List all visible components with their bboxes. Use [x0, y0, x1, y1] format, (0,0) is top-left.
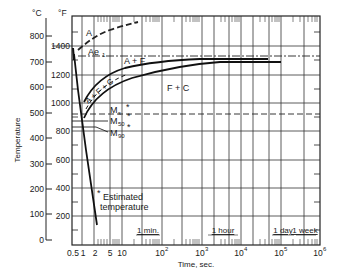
svg-text:600: 600: [30, 82, 44, 92]
svg-text:10: 10: [195, 248, 205, 258]
label-ms: M: [110, 105, 118, 115]
svg-text:6: 6: [323, 246, 327, 252]
label-m90-sub: 90: [118, 133, 125, 139]
note-line-2: temperature: [100, 202, 149, 212]
y-axis-title: Temperature: [13, 117, 22, 162]
unit-fahrenheit: °F: [58, 8, 67, 18]
time-markers: 1 min. 1 hour 1 day 1 week: [137, 226, 319, 235]
svg-text:0: 0: [39, 235, 44, 245]
svg-text:800: 800: [30, 31, 44, 41]
svg-text:10: 10: [155, 248, 165, 258]
label-region-a: A: [86, 28, 92, 38]
label-m50-sub: 50: [118, 121, 125, 127]
svg-text:3: 3: [205, 246, 209, 252]
label-ms-sub: s: [118, 110, 121, 116]
label-m50-star: *: [127, 111, 131, 121]
label-ae1-sub: 1: [102, 52, 106, 58]
svg-text:100: 100: [30, 209, 44, 219]
svg-text:5: 5: [284, 246, 288, 252]
svg-text:1 day: 1 day: [273, 226, 293, 235]
label-region-fc: F + C: [167, 83, 190, 93]
svg-text:1 week: 1 week: [292, 226, 318, 235]
svg-text:800: 800: [56, 126, 70, 136]
x-axis-title: Time, sec.: [178, 260, 215, 269]
svg-text:600: 600: [56, 155, 70, 165]
fahrenheit-tick-labels: 1400 1200 1000 800 600 400 200: [51, 41, 72, 221]
svg-text:1 hour: 1 hour: [212, 226, 235, 235]
svg-text:400: 400: [56, 183, 70, 193]
label-m50: M: [110, 116, 118, 126]
ttt-diagram: 800 700 600 500 400 300 200 100 0 1400 1…: [0, 0, 337, 277]
svg-text:200: 200: [56, 211, 70, 221]
svg-text:1400: 1400: [51, 41, 70, 51]
svg-text:300: 300: [30, 159, 44, 169]
svg-text:2: 2: [93, 248, 98, 258]
x-tick-superscripts: 2 3 4 5 6: [165, 246, 327, 252]
svg-text:4: 4: [244, 246, 248, 252]
unit-celsius: °C: [32, 8, 42, 18]
label-m90: M: [110, 128, 118, 138]
svg-text:1 min.: 1 min.: [137, 226, 159, 235]
svg-text:500: 500: [30, 108, 44, 118]
svg-text:1: 1: [81, 248, 86, 258]
svg-text:700: 700: [30, 57, 44, 67]
svg-text:10: 10: [274, 248, 284, 258]
svg-text:10: 10: [234, 248, 244, 258]
svg-text:1000: 1000: [51, 98, 70, 108]
svg-text:400: 400: [30, 133, 44, 143]
svg-text:0.5: 0.5: [67, 248, 79, 258]
svg-text:200: 200: [30, 184, 44, 194]
celsius-tick-labels: 800 700 600 500 400 300 200 100 0: [30, 31, 44, 245]
svg-text:5: 5: [108, 248, 113, 258]
note-star: *: [97, 188, 101, 198]
cooling-curve: [74, 54, 97, 225]
svg-text:10: 10: [117, 248, 127, 258]
label-m90-star: *: [127, 122, 131, 132]
svg-text:1200: 1200: [51, 70, 70, 80]
label-ae1: Ae: [88, 47, 99, 57]
celsius-ticks: [46, 36, 52, 240]
note-line-1: Estimated: [103, 192, 143, 202]
svg-text:2: 2: [165, 246, 169, 252]
label-region-af: A + F: [124, 56, 146, 66]
svg-text:10: 10: [313, 248, 323, 258]
cooling-curve-start: [73, 48, 74, 60]
